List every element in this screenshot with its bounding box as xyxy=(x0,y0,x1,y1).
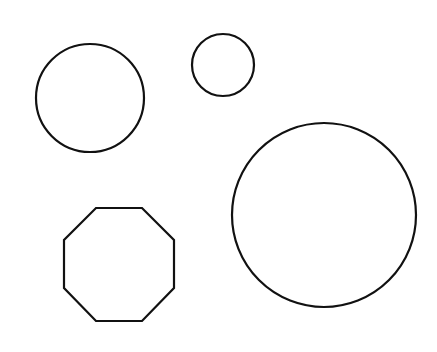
shapes-canvas xyxy=(0,0,437,352)
background xyxy=(0,0,437,352)
